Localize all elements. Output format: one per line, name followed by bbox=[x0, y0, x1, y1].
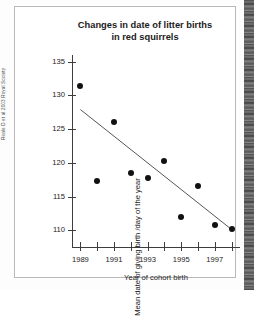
credit-line: Reale D et al 2003 Royal Society bbox=[1, 10, 6, 140]
scan-edge-artifact bbox=[244, 0, 254, 290]
chart-frame: Changes in date of litter births in red … bbox=[14, 6, 236, 278]
x-axis-title: Year of cohort birth bbox=[72, 273, 240, 282]
data-point-1998 bbox=[229, 226, 235, 232]
data-point-1992 bbox=[128, 170, 134, 176]
data-point-1995 bbox=[178, 214, 184, 220]
trend-line bbox=[15, 7, 237, 279]
data-point-1993 bbox=[145, 175, 151, 181]
